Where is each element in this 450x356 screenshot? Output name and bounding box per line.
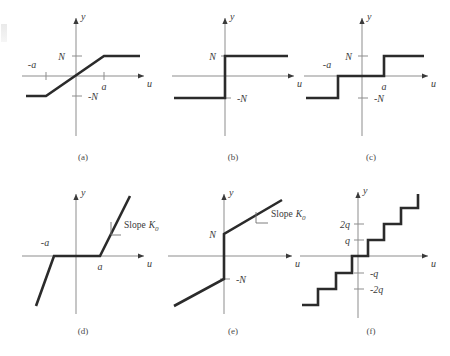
panel-caption-d: (d) [8, 326, 158, 336]
panel-caption-a: (a) [8, 152, 158, 162]
ideal-relay-curve [174, 56, 288, 98]
x-tick-label-a: a [98, 261, 103, 272]
x-axis-arrowhead [286, 253, 292, 258]
y-axis-arrowhead [73, 18, 78, 24]
y-tick-label-neg-N: -N [236, 274, 247, 285]
y-axis-arrowhead [222, 18, 227, 24]
y-tick-label-neg-2q: -2q [370, 284, 383, 295]
x-tick-label-neg-a: -a [28, 59, 36, 70]
x-axis-label: u [147, 258, 152, 269]
y-tick-label-N: N [208, 51, 217, 62]
x-axis-arrowhead [422, 253, 428, 258]
y-tick-label-2q: 2q [340, 219, 350, 230]
panel-preload: u y N -N SlopeK0 (e) [158, 178, 308, 356]
panel-caption-f: (f) [296, 326, 446, 336]
panel-caption-c: (c) [296, 152, 446, 162]
y-tick-label-neg-N: -N [237, 93, 248, 104]
nonlinearity-figure: u y -a a N -N (a) u y N -N (b) [0, 0, 450, 356]
x-axis-arrowhead [422, 73, 428, 78]
y-tick-label-N: N [57, 51, 66, 62]
plot-relay-dead-zone: u y -a a N -N [296, 4, 446, 154]
y-axis-arrowhead [221, 194, 226, 200]
plot-quantizer: u y 2q q -q -2q [296, 178, 446, 328]
plot-dead-zone: u y -a a SlopeK0 [8, 178, 158, 328]
panel-quantizer: u y 2q q -q -2q (f) [296, 178, 446, 356]
y-axis-arrowhead [359, 18, 364, 24]
plot-preload: u y N -N SlopeK0 [158, 178, 308, 328]
slope-prefix: Slope [124, 220, 146, 230]
y-axis-label: y [366, 11, 372, 22]
x-axis-label: u [431, 258, 436, 269]
dead-zone-curve [36, 196, 130, 306]
page-edge-artifact [1, 24, 7, 42]
y-axis-label: y [80, 187, 86, 198]
y-tick-label-N: N [344, 51, 353, 62]
y-tick-label-q: q [345, 235, 350, 246]
slope-annotation: SlopeK0 [124, 220, 159, 233]
x-axis-arrowhead [288, 73, 294, 78]
y-axis-arrowhead [355, 192, 360, 198]
slope-prefix: Slope [271, 209, 293, 219]
y-axis-label: y [229, 11, 235, 22]
y-tick-label-neg-q: -q [370, 268, 378, 279]
x-tick-label-a: a [382, 81, 387, 92]
y-tick-label-neg-N: -N [374, 93, 385, 104]
x-tick-label-neg-a: -a [41, 237, 49, 248]
panel-relay-dead-zone: u y -a a N -N (c) [296, 4, 446, 182]
x-axis-label: u [431, 78, 436, 89]
y-axis-arrowhead [73, 194, 78, 200]
x-axis-arrowhead [138, 253, 144, 258]
y-tick-label-neg-N: -N [88, 91, 99, 102]
plot-saturation: u y -a a N -N [8, 4, 158, 154]
panel-caption-b: (b) [158, 152, 308, 162]
panel-dead-zone: u y -a a SlopeK0 (d) [8, 178, 158, 356]
x-axis-label: u [147, 78, 152, 89]
plot-ideal-relay: u y N -N [158, 4, 308, 154]
x-axis-arrowhead [138, 73, 144, 78]
quantizer-staircase [302, 194, 418, 305]
slope-annotation-text: SlopeK0 [124, 220, 159, 233]
preload-curve [174, 200, 282, 306]
x-tick-label-neg-a: -a [323, 59, 331, 70]
panel-ideal-relay: u y N -N (b) [158, 4, 308, 182]
y-axis-label: y [228, 187, 234, 198]
panel-saturation: u y -a a N -N (a) [8, 4, 158, 182]
x-tick-label-a: a [102, 81, 107, 92]
panel-caption-e: (e) [158, 326, 308, 336]
y-axis-label: y [362, 185, 368, 196]
y-axis-label: y [80, 11, 86, 22]
y-tick-label-N: N [208, 229, 217, 240]
